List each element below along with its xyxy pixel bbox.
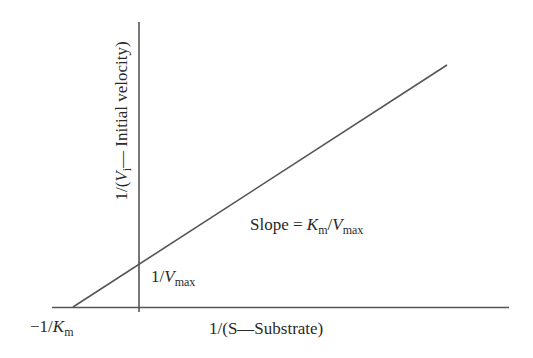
km-intercept-label: −1/Km bbox=[30, 318, 74, 335]
y-axis-label: 1/(Vi— Initial velocity) bbox=[113, 41, 130, 200]
slope-v-sub: max bbox=[343, 223, 364, 237]
slope-prefix: Slope = bbox=[250, 215, 307, 234]
y-label-suffix: — Initial velocity) bbox=[112, 41, 131, 168]
vmax-var: V bbox=[164, 267, 174, 286]
slope-km: K bbox=[307, 215, 318, 234]
y-label-prefix: 1/( bbox=[112, 182, 131, 201]
vmax-intercept-label: 1/Vmax bbox=[151, 268, 195, 285]
plot-canvas bbox=[0, 0, 533, 358]
km-prefix: −1/ bbox=[30, 317, 53, 336]
km-sub: m bbox=[64, 325, 73, 339]
y-label-var: V bbox=[112, 171, 131, 181]
y-label-sub: i bbox=[120, 168, 134, 171]
km-var: K bbox=[53, 317, 64, 336]
vmax-prefix: 1/ bbox=[151, 267, 164, 286]
slope-km-sub: m bbox=[318, 223, 327, 237]
slope-annotation: Slope = Km/Vmax bbox=[250, 216, 363, 233]
vmax-sub: max bbox=[175, 275, 196, 289]
slope-v: V bbox=[332, 215, 342, 234]
x-axis-label: 1/(S—Substrate) bbox=[209, 320, 323, 337]
